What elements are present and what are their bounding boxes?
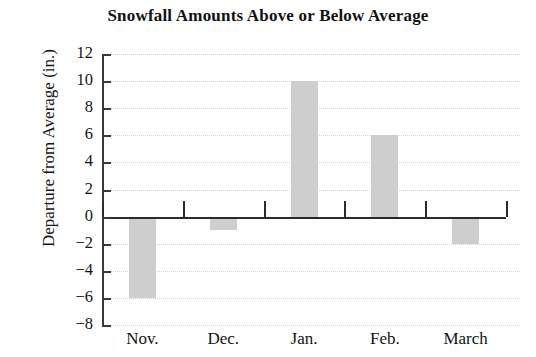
y-axis-tick-label: 6 [53,124,93,144]
x-axis-category-label: Jan. [259,329,349,349]
gridline-neg6 [102,298,520,299]
y-axis-tick [102,244,111,246]
y-axis-tick [102,271,111,273]
y-axis-tick-label: 10 [53,70,93,90]
y-axis-tick [102,190,111,192]
x-axis-zero-line [102,217,506,219]
y-axis-tick [102,298,111,300]
category-separator-tick [183,201,185,217]
y-axis-tick [102,162,111,164]
y-axis-tick [102,81,111,83]
gridline-12 [102,54,520,55]
bar-dec [210,217,237,231]
y-axis-tick-label: −8 [53,314,93,334]
gridline-neg4 [102,271,520,272]
y-axis-tick-label: −6 [53,287,93,307]
bar-nov [129,217,156,298]
snowfall-bar-chart-figure: Snowfall Amounts Above or Below Average … [0,0,536,357]
plot-area [102,54,520,325]
y-axis-tick-label: 12 [53,43,93,63]
y-axis-tick [102,325,111,327]
x-axis-category-label: Dec. [178,329,268,349]
y-axis-tick [102,54,111,56]
x-axis-category-label: Feb. [340,329,430,349]
y-axis-tick [102,135,111,137]
chart-title: Snowfall Amounts Above or Below Average [0,6,536,26]
gridline-neg8 [102,325,520,326]
y-axis-tick-label: 2 [53,179,93,199]
y-axis-tick-label: −4 [53,260,93,280]
y-axis-tick-label: 0 [53,206,93,226]
y-axis-tick-label: −2 [53,233,93,253]
category-separator-tick [425,201,427,217]
bar-feb [371,135,398,216]
gridline-neg2 [102,244,520,245]
bar-jan [291,81,318,217]
y-axis-tick [102,108,111,110]
y-axis-tick-label: 8 [53,97,93,117]
category-separator-tick [506,201,508,217]
category-separator-tick [102,201,104,217]
bar-march [452,217,479,244]
category-separator-tick [264,201,266,217]
x-axis-category-label: March [421,329,511,349]
y-axis-tick-label: 4 [53,151,93,171]
y-axis-tick [102,217,111,219]
category-separator-tick [344,201,346,217]
x-axis-category-label: Nov. [97,329,187,349]
